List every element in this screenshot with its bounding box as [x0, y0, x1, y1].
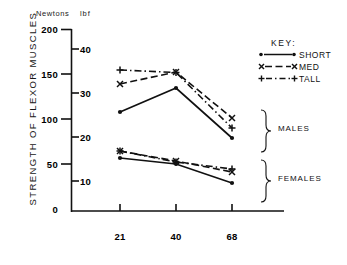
series-males-tall: [120, 70, 232, 128]
legend-sample-med-icon: [258, 61, 298, 72]
legend: KEY: SHORT MED: [258, 38, 344, 84]
legend-sample-short-icon: [258, 49, 298, 60]
legend-label-med: MED: [299, 62, 319, 72]
x-axis-ticks: [120, 204, 232, 211]
group-label-males: MALES: [278, 124, 310, 133]
legend-item-short[interactable]: SHORT: [258, 49, 344, 60]
legend-item-med[interactable]: MED: [258, 61, 344, 72]
legend-item-tall[interactable]: TALL: [258, 73, 344, 84]
series-males-med: [120, 72, 232, 118]
legend-title: KEY:: [271, 38, 344, 48]
legend-sample-tall-icon: [258, 73, 298, 84]
right-axis-ticks: [72, 49, 80, 181]
series-males-short: [120, 88, 232, 138]
males-bracket: [261, 110, 271, 152]
markers-females-med: [117, 148, 235, 175]
axis-spines: [72, 29, 285, 212]
chart-figure: STRENGTH OF FLEXOR MUSCLES Newtons lbf 2…: [0, 0, 347, 265]
legend-label-short: SHORT: [299, 50, 331, 60]
group-label-females: FEMALES: [278, 174, 322, 183]
legend-label-tall: TALL: [299, 74, 321, 84]
markers-males-med: [117, 69, 235, 121]
left-axis-ticks: [61, 30, 72, 165]
markers-males-short: [118, 86, 234, 140]
markers-males-tall: [117, 67, 236, 132]
females-bracket: [261, 160, 271, 202]
